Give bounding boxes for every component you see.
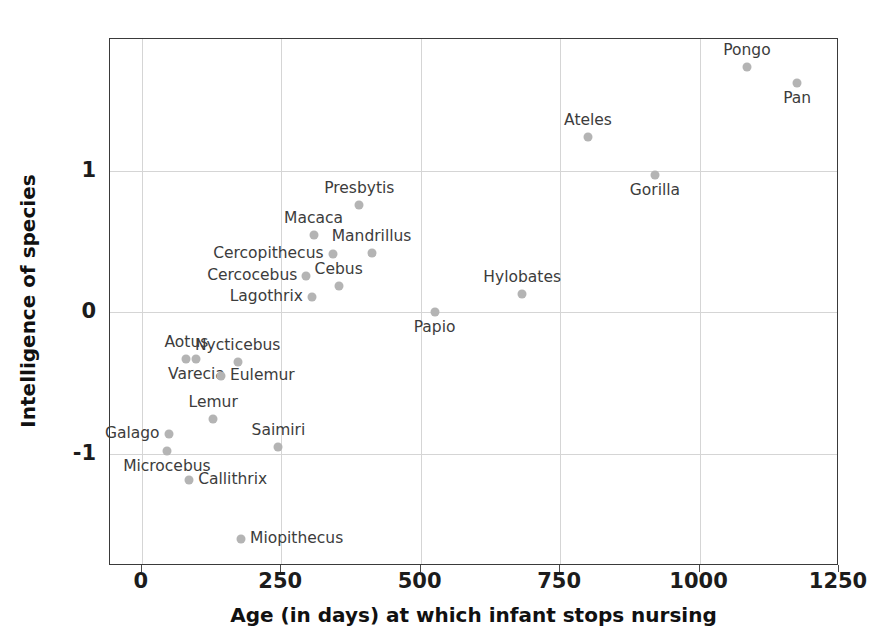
y-tick-label: 1 <box>81 159 96 180</box>
data-point-hylobates[interactable] <box>518 290 527 299</box>
data-point-lemur[interactable] <box>209 414 218 423</box>
point-label-cebus: Cebus <box>315 261 363 277</box>
data-point-saimiri[interactable] <box>274 443 283 452</box>
data-point-papio[interactable] <box>430 308 439 317</box>
point-label-cercocebus: Cercocebus <box>207 268 297 284</box>
point-label-mandrillus: Mandrillus <box>332 228 412 244</box>
data-point-presbytis[interactable] <box>355 200 364 209</box>
gridline-vertical <box>421 39 422 564</box>
data-point-microcebus[interactable] <box>162 447 171 456</box>
x-tick-label: 750 <box>537 571 581 592</box>
x-axis-title: Age (in days) at which infant stops nurs… <box>109 605 838 625</box>
data-point-mandrillus[interactable] <box>367 248 376 257</box>
gridline-vertical <box>560 39 561 564</box>
data-point-cercocebus[interactable] <box>302 271 311 280</box>
point-label-pan: Pan <box>783 91 811 107</box>
data-point-nycticebus[interactable] <box>233 358 242 367</box>
data-point-eulemur[interactable] <box>216 372 225 381</box>
x-tick-label: 500 <box>398 571 442 592</box>
x-tick-label: 1250 <box>809 571 867 592</box>
point-label-gorilla: Gorilla <box>630 183 680 199</box>
y-tick-label: 0 <box>81 301 96 322</box>
data-point-cebus[interactable] <box>334 281 343 290</box>
data-point-pan[interactable] <box>793 78 802 87</box>
data-point-cercopithecus[interactable] <box>328 250 337 259</box>
plot-area: PongoPanAtelesGorillaPresbytisMacacaMand… <box>109 38 838 565</box>
data-point-miopithecus[interactable] <box>237 535 246 544</box>
data-point-galago[interactable] <box>164 430 173 439</box>
point-label-galago: Galago <box>105 427 160 443</box>
point-label-lemur: Lemur <box>189 394 238 410</box>
point-label-lagothrix: Lagothrix <box>230 289 303 305</box>
gridline-horizontal <box>110 171 837 172</box>
x-tick-label: 250 <box>258 571 302 592</box>
x-tick-label: 1000 <box>669 571 727 592</box>
gridline-horizontal <box>110 312 837 313</box>
y-axis-title: Intelligence of species <box>18 101 38 501</box>
y-tick-label: -1 <box>73 443 96 464</box>
point-label-pongo: Pongo <box>723 43 770 59</box>
data-point-ateles[interactable] <box>584 132 593 141</box>
point-label-hylobates: Hylobates <box>483 270 561 286</box>
gridline-vertical <box>700 39 701 564</box>
data-point-callithrix[interactable] <box>185 475 194 484</box>
point-label-miopithecus: Miopithecus <box>250 531 343 547</box>
data-point-varecia[interactable] <box>192 355 201 364</box>
point-label-callithrix: Callithrix <box>198 472 267 488</box>
point-label-cercopithecus: Cercopithecus <box>213 247 323 263</box>
data-point-lagothrix[interactable] <box>307 292 316 301</box>
data-point-macaca[interactable] <box>309 230 318 239</box>
point-label-eulemur: Eulemur <box>230 368 295 384</box>
point-label-ateles: Ateles <box>564 112 612 128</box>
data-point-pongo[interactable] <box>742 63 751 72</box>
data-point-gorilla[interactable] <box>650 171 659 180</box>
point-label-macaca: Macaca <box>284 210 343 226</box>
data-point-aotus[interactable] <box>182 355 191 364</box>
gridline-vertical <box>142 39 143 564</box>
x-tick-label: 0 <box>133 571 148 592</box>
point-label-presbytis: Presbytis <box>324 180 394 196</box>
point-label-saimiri: Saimiri <box>252 423 306 439</box>
gridline-horizontal <box>110 454 837 455</box>
scatter-chart: PongoPanAtelesGorillaPresbytisMacacaMand… <box>0 0 896 642</box>
point-label-nycticebus: Nycticebus <box>195 338 280 354</box>
point-label-papio: Papio <box>414 320 456 336</box>
